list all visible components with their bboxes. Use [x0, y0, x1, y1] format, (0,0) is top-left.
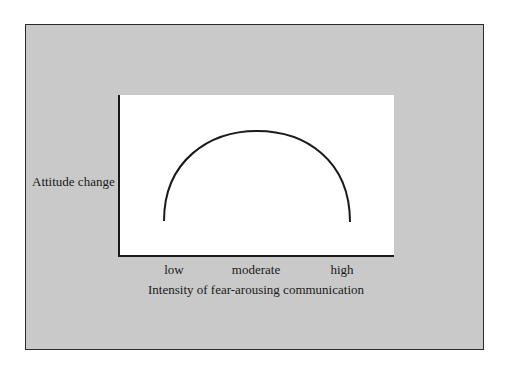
x-axis-label: Intensity of fear-arousing communication — [148, 282, 364, 298]
x-tick-low: low — [164, 262, 184, 278]
x-tick-high: high — [330, 262, 353, 278]
y-axis-label: Attitude change — [32, 174, 115, 190]
x-tick-moderate: moderate — [232, 262, 280, 278]
